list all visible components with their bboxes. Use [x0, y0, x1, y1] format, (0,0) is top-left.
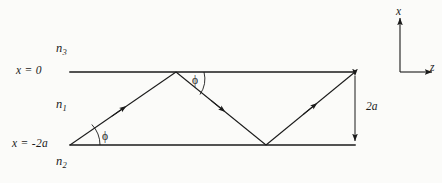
- ray-arrow-1: [112, 108, 124, 116]
- ray-path: [70, 72, 355, 145]
- refractive-index-label-n1: n1: [56, 98, 67, 112]
- ray-diagram-figure: n3 n1 n2 x = 0 x = -2a ϕ ϕ 2a x z: [0, 0, 442, 183]
- phi-top-arc: [200, 72, 205, 95]
- coordinate-axes: [400, 18, 432, 72]
- axis-label-x: x: [396, 6, 401, 18]
- ray-arrow-3: [303, 105, 315, 115]
- dimension-label-2a: 2a: [366, 101, 378, 113]
- axis-label-z: z: [430, 62, 434, 74]
- boundary-label-bottom: x = -2a: [12, 138, 48, 150]
- refractive-index-label-n3: n3: [56, 42, 67, 56]
- boundary-label-top: x = 0: [16, 65, 42, 77]
- ray-direction-arrows: [112, 100, 315, 116]
- angle-label-phi-top: ϕ: [192, 75, 198, 87]
- angle-label-phi-bottom: ϕ: [102, 131, 108, 143]
- refractive-index-label-n2: n2: [56, 155, 67, 169]
- ray-arrow-2: [211, 100, 223, 110]
